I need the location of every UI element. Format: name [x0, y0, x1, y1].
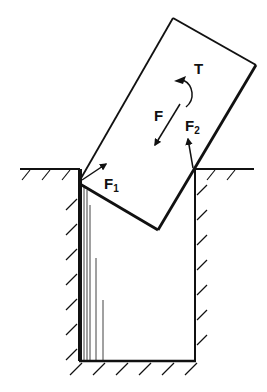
- force2-subscript: 2: [194, 125, 200, 136]
- force1-label: F1: [104, 176, 119, 194]
- diagram-canvas: [0, 0, 267, 392]
- force1-subscript: 1: [113, 183, 119, 194]
- pit: [66, 169, 207, 375]
- ground-right: [195, 169, 254, 180]
- force1-letter: F: [104, 175, 113, 192]
- force-f2-arrow-icon: [188, 139, 193, 168]
- force-label: F: [154, 108, 163, 123]
- torque-label: T: [194, 61, 203, 76]
- torque-arrowhead-icon: [174, 76, 186, 84]
- ground-left: [20, 169, 80, 180]
- force2-label: F2: [185, 118, 200, 136]
- torque-arrow-icon: [183, 80, 192, 107]
- force2-letter: F: [185, 117, 194, 134]
